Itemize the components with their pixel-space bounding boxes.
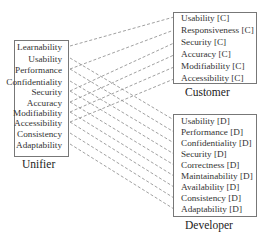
developer-item-security: Security [D] xyxy=(181,149,227,159)
developer-item-correctness: Correctness [D] xyxy=(181,160,239,170)
link-accessibility-c xyxy=(70,79,174,122)
link-accessibility-availability-d xyxy=(70,122,174,187)
unifier-caption: Unifier xyxy=(22,158,55,170)
link-learnability-usability-c xyxy=(70,17,174,46)
developer-item-adaptability: Adaptability [D] xyxy=(181,204,242,214)
developer-item-confidentiality: Confidentiality [D] xyxy=(181,138,252,148)
unifier-item-modifiability: Modifiability xyxy=(13,108,62,118)
unifier-item-usability: Usability xyxy=(28,54,62,64)
developer-item-consistency: Consistency [D] xyxy=(181,193,241,203)
customer-box: Usability [C] Responsiveness [C] Securit… xyxy=(173,12,257,84)
developer-box: Usability [D] Performance [D] Confidenti… xyxy=(173,114,257,217)
customer-caption: Customer xyxy=(185,86,230,98)
link-modifiability-maintainability-d xyxy=(70,112,174,176)
unifier-item-adaptability: Adaptability xyxy=(16,140,62,150)
developer-item-maintainability: Maintainability [D] xyxy=(181,171,253,181)
customer-item-security: Security [C] xyxy=(181,37,226,47)
link-accuracy-c xyxy=(70,55,174,102)
customer-item-responsiveness: Responsiveness [C] xyxy=(181,25,254,35)
link-performance-responsiveness-c xyxy=(70,30,174,69)
unifier-item-security: Security xyxy=(31,87,62,97)
unifier-item-learnability: Learnability xyxy=(17,42,62,52)
link-consistency-d xyxy=(70,133,174,198)
customer-item-accessibility: Accessibility [C] xyxy=(181,73,244,83)
developer-item-availability: Availability [D] xyxy=(181,182,239,192)
customer-item-usability: Usability [C] xyxy=(181,13,229,23)
developer-item-performance: Performance [D] xyxy=(181,127,243,137)
developer-item-usability: Usability [D] xyxy=(181,116,230,126)
unifier-item-confidentiality: Confidentiality xyxy=(6,77,62,87)
unifier-box: Learnability Usability Performance Confi… xyxy=(14,40,69,157)
unifier-item-performance: Performance xyxy=(15,65,62,75)
link-security-c xyxy=(70,43,174,91)
unifier-item-accessibility: Accessibility xyxy=(14,118,62,128)
unifier-item-accuracy: Accuracy xyxy=(27,98,62,108)
unifier-item-consistency: Consistency xyxy=(17,129,62,139)
customer-item-modifiability: Modifiability [C] xyxy=(181,61,245,71)
customer-item-accuracy: Accuracy [C] xyxy=(181,49,231,59)
link-modifiability-c xyxy=(70,67,174,112)
developer-caption: Developer xyxy=(185,219,233,231)
link-adaptability-d xyxy=(70,144,174,209)
